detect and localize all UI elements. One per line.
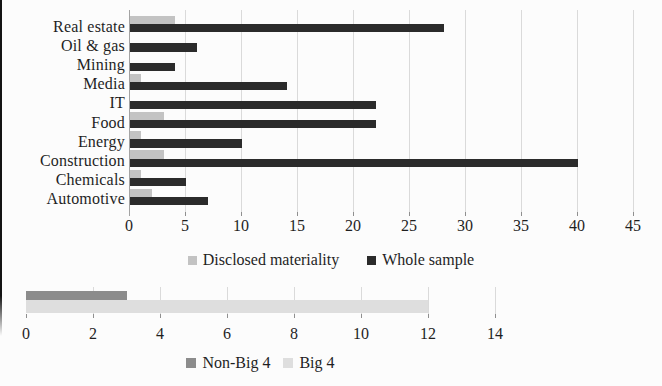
- legend-item-disclosed-materiality: Disclosed materiality: [188, 252, 339, 268]
- x-tick-label-10: 10: [341, 326, 381, 342]
- x-tick-10: [241, 212, 242, 216]
- figure: 051015202530354045Real estateOil & gasMi…: [0, 0, 662, 386]
- legend-swatch-whole-sample: [367, 256, 376, 265]
- x-tick-0: [26, 314, 27, 318]
- legend-label-non-big-4: Non-Big 4: [202, 355, 270, 371]
- x-tick-label-2: 2: [73, 326, 113, 342]
- x-tick-10: [361, 314, 362, 318]
- bar-automotive-whole-sample: [130, 197, 208, 205]
- x-tick-label-14: 14: [475, 326, 515, 342]
- bar-media-whole-sample: [130, 82, 287, 90]
- x-tick-40: [577, 212, 578, 216]
- x-tick-15: [297, 212, 298, 216]
- legend-swatch-disclosed-materiality: [188, 256, 197, 265]
- gridline-45: [633, 10, 634, 212]
- x-tick-label-6: 6: [207, 326, 247, 342]
- bar-media-disclosed-materiality: [130, 74, 141, 82]
- category-label-mining: Mining: [0, 55, 125, 74]
- bar-chemicals-whole-sample: [130, 178, 186, 186]
- gridline-20: [353, 10, 354, 212]
- bar-mining-whole-sample: [130, 63, 175, 71]
- x-tick-label-8: 8: [274, 326, 314, 342]
- bar-big-4: [26, 300, 428, 313]
- x-tick-label-0: 0: [109, 218, 149, 234]
- x-tick-35: [521, 212, 522, 216]
- x-tick-20: [353, 212, 354, 216]
- legend-item-big-4: Big 4: [283, 355, 334, 371]
- gridline-15: [297, 10, 298, 212]
- category-label-real-estate: Real estate: [0, 17, 125, 36]
- legend-swatch-non-big-4: [186, 358, 196, 368]
- category-label-energy: Energy: [0, 132, 125, 151]
- x-tick-label-12: 12: [408, 326, 448, 342]
- bar-it-whole-sample: [130, 101, 376, 109]
- x-tick-12: [428, 314, 429, 318]
- x-tick-45: [633, 212, 634, 216]
- category-label-media: Media: [0, 75, 125, 94]
- legend: Disclosed materialityWhole sample: [0, 250, 662, 270]
- x-tick-label-20: 20: [333, 218, 373, 234]
- x-tick-label-15: 15: [277, 218, 317, 234]
- bar-food-disclosed-materiality: [130, 112, 164, 120]
- x-tick-4: [160, 314, 161, 318]
- category-label-oil-gas: Oil & gas: [0, 36, 125, 55]
- gridline-12: [428, 287, 429, 314]
- x-tick-label-40: 40: [557, 218, 597, 234]
- category-label-food: Food: [0, 113, 125, 132]
- gridline-30: [465, 10, 466, 212]
- category-label-automotive: Automotive: [0, 190, 125, 209]
- legend-label-disclosed-materiality: Disclosed materiality: [203, 252, 339, 268]
- legend-item-whole-sample: Whole sample: [367, 252, 474, 268]
- x-tick-label-30: 30: [445, 218, 485, 234]
- x-tick-2: [93, 314, 94, 318]
- x-tick-5: [185, 212, 186, 216]
- gridline-25: [409, 10, 410, 212]
- bar-non-big-4: [26, 291, 127, 300]
- category-label-it: IT: [0, 94, 125, 113]
- x-tick-30: [465, 212, 466, 216]
- x-tick-label-5: 5: [165, 218, 205, 234]
- bar-energy-disclosed-materiality: [130, 131, 141, 139]
- bar-oil-gas-whole-sample: [130, 43, 197, 51]
- gridline-35: [521, 10, 522, 212]
- bar-real-estate-disclosed-materiality: [130, 16, 175, 24]
- legend-label-whole-sample: Whole sample: [382, 252, 474, 268]
- x-tick-label-10: 10: [221, 218, 261, 234]
- legend-swatch-big-4: [283, 358, 293, 368]
- x-tick-25: [409, 212, 410, 216]
- category-label-chemicals: Chemicals: [0, 171, 125, 190]
- x-tick-8: [294, 314, 295, 318]
- legend: Non-Big 4Big 4: [26, 353, 495, 373]
- bar-real-estate-whole-sample: [130, 24, 444, 32]
- bar-construction-disclosed-materiality: [130, 150, 164, 158]
- gridline-40: [577, 10, 578, 212]
- x-tick-label-4: 4: [140, 326, 180, 342]
- legend-item-non-big-4: Non-Big 4: [186, 355, 270, 371]
- x-tick-label-45: 45: [613, 218, 653, 234]
- bar-chemicals-disclosed-materiality: [130, 170, 141, 178]
- bar-food-whole-sample: [130, 120, 376, 128]
- x-tick-label-0: 0: [6, 326, 46, 342]
- x-tick-label-35: 35: [501, 218, 541, 234]
- gridline-14: [495, 287, 496, 314]
- gridline-10: [241, 10, 242, 212]
- bar-construction-whole-sample: [130, 159, 578, 167]
- bar-automotive-disclosed-materiality: [130, 189, 152, 197]
- x-tick-14: [495, 314, 496, 318]
- x-tick-6: [227, 314, 228, 318]
- legend-label-big-4: Big 4: [299, 355, 334, 371]
- category-label-construction: Construction: [0, 151, 125, 170]
- x-tick-label-25: 25: [389, 218, 429, 234]
- bar-energy-whole-sample: [130, 139, 242, 147]
